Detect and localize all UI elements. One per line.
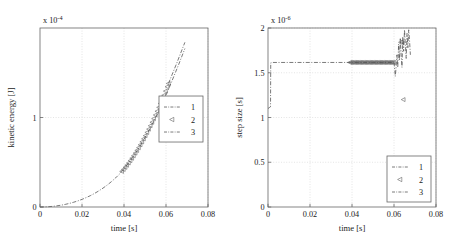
- legend-right: 123: [387, 156, 431, 202]
- plot-right: 00.020.040.060.0800.511.52x 10-6time [s]…: [228, 0, 455, 241]
- legend-label-3: 3: [419, 188, 423, 197]
- legend-label-2: 2: [191, 116, 195, 125]
- legend-box: [159, 96, 203, 142]
- legend-box: [387, 156, 431, 202]
- x-tick-label: 0.06: [387, 210, 401, 219]
- x-tick-label: 0.08: [201, 210, 215, 219]
- legend-label-3: 3: [191, 128, 195, 137]
- figure-container: 00.020.040.060.0801x 10-4time [s]kinetic…: [0, 0, 455, 241]
- y-axis-exponent: x 10-6: [271, 14, 290, 25]
- x-tick-label: 0.04: [117, 210, 131, 219]
- x-tick-label: 0.06: [159, 210, 173, 219]
- x-tick-label: 0.08: [429, 210, 443, 219]
- y-axis-label: step size [s]: [234, 97, 244, 138]
- y-tick-label: 2: [260, 24, 264, 33]
- x-tick-label: 0.04: [345, 210, 359, 219]
- data-marker-triangle-left: [155, 109, 159, 113]
- y-tick-label: 0: [32, 203, 36, 212]
- legend-label-1: 1: [419, 163, 423, 172]
- legend-label-1: 1: [191, 103, 195, 112]
- legend-left: 123: [159, 96, 203, 142]
- data-series-line-1: [268, 62, 394, 108]
- y-tick-label: 0.5: [254, 158, 264, 167]
- chart-panel-kinetic-energy: 00.020.040.060.0801x 10-4time [s]kinetic…: [0, 0, 227, 241]
- y-axis-label: kinetic energy [J]: [6, 87, 16, 147]
- y-tick-label: 1.5: [254, 69, 264, 78]
- y-tick-label: 1: [260, 114, 264, 123]
- y-axis-exponent: x 10-4: [43, 14, 62, 25]
- data-series-line-3: [169, 42, 185, 83]
- x-tick-label: 0.02: [75, 210, 89, 219]
- data-series-line-3: [394, 30, 410, 77]
- y-tick-label: 0: [260, 203, 264, 212]
- x-tick-label: 0: [38, 210, 42, 219]
- x-axis-label: time [s]: [339, 223, 366, 233]
- plot-left: 00.020.040.060.0801x 10-4time [s]kinetic…: [0, 0, 227, 241]
- y-tick-label: 1: [32, 114, 36, 123]
- data-marker-triangle-left: [165, 85, 169, 89]
- data-marker-triangle-left: [401, 98, 405, 102]
- x-axis-label: time [s]: [111, 223, 138, 233]
- x-tick-label: 0.02: [303, 210, 317, 219]
- chart-panel-step-size: 00.020.040.060.0800.511.52x 10-6time [s]…: [228, 0, 455, 241]
- x-tick-label: 0: [266, 210, 270, 219]
- data-marker-triangle-left: [163, 89, 167, 93]
- legend-label-2: 2: [419, 176, 423, 185]
